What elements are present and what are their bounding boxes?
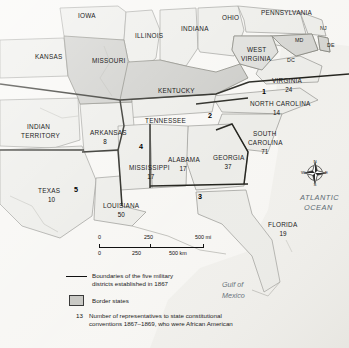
reconstruction-districts-map: IOWAILLINOISINDIANAOHIOPENNSYLVANIANJDEM… xyxy=(0,0,349,348)
state-label-louisiana: LOUISIANA xyxy=(103,203,139,209)
legend-row-border-states: Border states xyxy=(66,295,346,308)
legend-border-states-text: Border states xyxy=(92,295,346,305)
state-representatives-florida: 19 xyxy=(280,231,287,237)
scale-bar-rule xyxy=(99,244,204,248)
legend-boundaries-line-1: Boundaries of the five military xyxy=(92,272,346,280)
state-label-indiana: INDIANA xyxy=(181,26,209,32)
legend-boundaries-text: Boundaries of the five military district… xyxy=(92,272,346,289)
legend-boundaries-line-2: districts established in 1867 xyxy=(92,280,346,288)
state-label-arkansas: ARKANSAS xyxy=(90,130,127,136)
state-representatives-carolina: 71 xyxy=(261,149,268,155)
military-district-number-5: 5 xyxy=(74,186,78,193)
state-label-ohio: OHIO xyxy=(222,15,239,21)
state-label-mississippi: MISSISSIPPI xyxy=(129,165,170,171)
military-district-number-1: 1 xyxy=(262,88,266,95)
state-label-west: WEST xyxy=(247,47,266,53)
state-label-iowa: IOWA xyxy=(78,13,96,19)
compass-west-label: W xyxy=(301,171,305,175)
state-label-kentucky: KENTUCKY xyxy=(158,88,195,94)
state-label-dc: DC xyxy=(287,58,295,63)
state-representatives-texas: 10 xyxy=(48,197,55,203)
ocean-label-ocean: OCEAN xyxy=(304,203,333,213)
state-label-de: DE xyxy=(327,43,335,48)
legend-representatives-line-2: conventions 1867–1869, who were African … xyxy=(89,320,346,328)
state-label-north-carolina: NORTH CAROLINA xyxy=(250,101,311,107)
state-label-tennessee: TENNESSEE xyxy=(145,118,186,124)
representatives-number-swatch: 13 xyxy=(66,312,83,319)
scale-bar-midtick xyxy=(150,244,151,247)
legend-representatives-text: Number of representatives to state const… xyxy=(89,312,346,329)
state-representatives-arkansas: 8 xyxy=(103,139,107,145)
state-representatives-georgia: 37 xyxy=(225,164,232,170)
scale-bar: 0 250 500 mi 0 250 500 km xyxy=(99,234,227,259)
border-state-swatch xyxy=(69,295,84,306)
state-representatives-alabama: 17 xyxy=(180,166,187,172)
state-label-carolina: CAROLINA xyxy=(248,140,283,146)
legend-representatives-line-1: Number of representatives to state const… xyxy=(89,312,346,320)
state-label-georgia: GEORGIA xyxy=(213,155,245,161)
state-label-virginia: VIRGINIA xyxy=(241,56,271,62)
scale-km-tick-0: 0 xyxy=(98,250,101,256)
compass-north-label: N xyxy=(314,160,317,164)
scale-miles-tick-250: 250 xyxy=(144,234,153,240)
military-district-number-3: 3 xyxy=(198,193,202,200)
state-label-missouri: MISSOURI xyxy=(92,58,126,64)
state-label-south: SOUTH xyxy=(253,131,277,137)
legend-row-representatives: 13 Number of representatives to state co… xyxy=(66,312,346,330)
state-label-md: MD xyxy=(295,38,304,43)
state-label-virginia: VIRGINIA xyxy=(272,78,302,84)
state-representatives-north-carolina: 14 xyxy=(273,110,280,116)
military-district-number-4: 4 xyxy=(139,143,143,150)
scale-km-tick-250: 250 xyxy=(132,250,141,256)
compass-south-label: S xyxy=(314,183,317,187)
state-label-florida: FLORIDA xyxy=(268,222,297,228)
state-label-nj: NJ xyxy=(320,26,327,31)
state-label-indian: INDIAN xyxy=(27,124,50,130)
state-label-alabama: ALABAMA xyxy=(168,157,200,163)
scale-miles-tick-0: 0 xyxy=(98,234,101,240)
military-district-number-2: 2 xyxy=(208,112,212,119)
scale-km-tick-500: 500 km xyxy=(169,250,187,256)
state-representatives-virginia: 24 xyxy=(285,87,292,93)
state-label-texas: TEXAS xyxy=(38,188,60,194)
state-label-illinois: ILLINOIS xyxy=(135,33,163,39)
legend-row-boundaries: Boundaries of the five military district… xyxy=(66,272,346,291)
state-representatives-louisiana: 50 xyxy=(118,212,125,218)
ocean-label-atlantic: ATLANTIC xyxy=(300,193,339,203)
scale-miles-tick-500: 500 mi xyxy=(195,234,211,240)
state-representatives-mississippi: 17 xyxy=(147,174,154,180)
state-label-territory: TERRITORY xyxy=(21,133,60,139)
compass-east-label: E xyxy=(325,171,328,175)
map-legend: Boundaries of the five military district… xyxy=(66,272,346,334)
state-label-kansas: KANSAS xyxy=(35,54,62,60)
state-label-pennsylvania: PENNSYLVANIA xyxy=(261,10,312,16)
district-boundary-swatch xyxy=(66,276,87,277)
